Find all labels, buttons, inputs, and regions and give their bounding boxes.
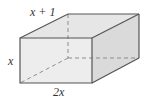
box-diagram: x + 1 x 2x bbox=[0, 0, 150, 99]
depth-label: x + 1 bbox=[29, 5, 55, 19]
width-label: 2x bbox=[53, 85, 65, 99]
front-face bbox=[20, 38, 92, 83]
height-label: x bbox=[7, 54, 14, 68]
